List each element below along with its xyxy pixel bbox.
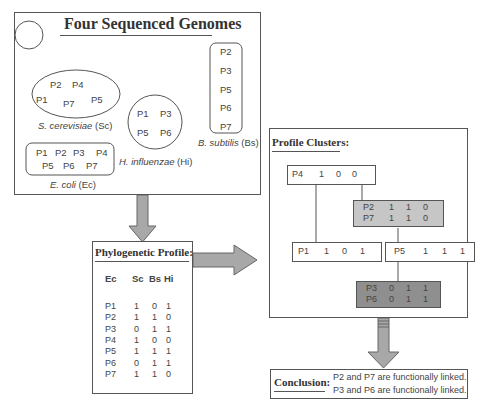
cluster-value: 1 — [324, 246, 329, 256]
cluster-value: 1 — [319, 169, 324, 179]
cluster-value: 1 — [423, 283, 428, 293]
conclusion-line-1: P2 and P7 are functionally linked. — [333, 372, 467, 382]
cluster-value: 1 — [406, 202, 411, 212]
cluster-value: 0 — [389, 283, 394, 293]
cluster-value: 0 — [423, 213, 428, 223]
cluster-value: 1 — [406, 294, 411, 304]
cluster-value: 0 — [352, 169, 357, 179]
cluster-value: 1 — [442, 246, 447, 256]
cluster-value: 1 — [423, 246, 428, 256]
cluster-value: 1 — [389, 213, 394, 223]
cluster-protein: P1 — [298, 246, 309, 256]
cluster-value: 1 — [406, 213, 411, 223]
cluster-value: 1 — [406, 283, 411, 293]
cluster-value: 0 — [389, 294, 394, 304]
cluster-protein: P2 — [363, 202, 374, 212]
cluster-value: 1 — [423, 294, 428, 304]
cluster-protein: P3 — [366, 283, 377, 293]
cluster-value: 0 — [336, 169, 341, 179]
conclusion-label-underline — [274, 391, 325, 392]
conclusion-line-2: P3 and P6 are functionally linked. — [333, 385, 467, 395]
cluster-value: 1 — [389, 202, 394, 212]
cluster-protein: P5 — [394, 246, 405, 256]
cluster-protein: P6 — [366, 294, 377, 304]
cluster-protein: P7 — [363, 213, 374, 223]
cluster-value: 0 — [342, 246, 347, 256]
cluster-value: 1 — [460, 246, 465, 256]
cluster-value: 1 — [360, 246, 365, 256]
cluster-protein: P4 — [292, 169, 303, 179]
conclusion-label: Conclusion: — [274, 376, 330, 388]
cluster-value: 0 — [423, 202, 428, 212]
